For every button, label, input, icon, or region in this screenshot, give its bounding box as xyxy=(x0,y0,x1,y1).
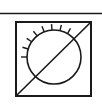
sun-circle xyxy=(27,30,81,84)
sun-ray xyxy=(60,25,61,31)
sun-rays xyxy=(21,24,71,57)
sun-ray xyxy=(42,26,44,32)
sun-ray xyxy=(22,47,28,49)
sun-slash-icon xyxy=(0,0,102,105)
sun-ray xyxy=(33,31,37,36)
light-symbol: Light sensor with backlight-off symbol xyxy=(0,0,102,105)
sun-ray xyxy=(27,38,32,41)
sun-ray xyxy=(68,28,71,33)
